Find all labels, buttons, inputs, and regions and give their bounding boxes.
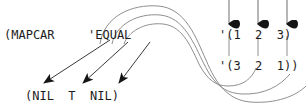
- arrow-to-result-nil2: [119, 42, 150, 83]
- down-arrow-group: [229, 0, 287, 24]
- arrow-to-result-nil1: [44, 40, 110, 83]
- arrow-to-result-t: [83, 42, 128, 83]
- result-arrow-group: [44, 40, 150, 83]
- predicate-label: 'EQUAL: [88, 29, 131, 41]
- result-label: (NIL T NIL): [25, 90, 119, 102]
- s-curve-middle: [112, 15, 290, 94]
- mapcar-label: (MAPCAR: [4, 29, 55, 41]
- s-curve-group: [100, 6, 306, 103]
- diagram-canvas: (MAPCAR 'EQUAL '(1 2 3) '(3 2 1)) (NIL T…: [0, 0, 308, 107]
- list-one-label: '(1 2 3): [219, 29, 291, 41]
- list-two-label: '(3 2 1)): [219, 60, 298, 72]
